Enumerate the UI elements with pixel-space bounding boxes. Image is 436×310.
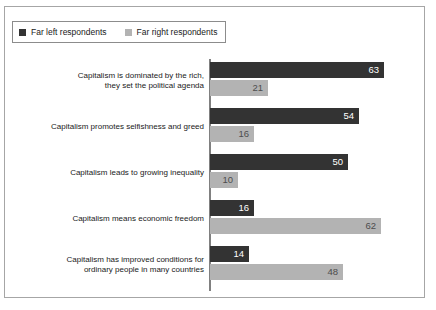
bar-far-right[interactable]: 21	[210, 80, 268, 96]
bar-value-label: 21	[252, 83, 263, 93]
legend-label-far-right: Far right respondents	[137, 28, 218, 37]
bar-group: Capitalism promotes selfishness and gree…	[5, 104, 424, 150]
category-label: Capitalism means economic freedom	[24, 196, 204, 242]
bar-value-label: 16	[238, 203, 249, 213]
plot-area: Capitalism is dominated by the rich,they…	[5, 55, 424, 298]
bar-far-right[interactable]: 62	[210, 218, 381, 234]
bar-far-left[interactable]: 16	[210, 200, 254, 216]
category-label: Capitalism is dominated by the rich,they…	[24, 58, 204, 104]
legend-entry-far-right[interactable]: Far right respondents	[125, 28, 218, 37]
category-label: Capitalism promotes selfishness and gree…	[24, 104, 204, 150]
bar-value-label: 10	[222, 175, 233, 185]
category-label-line: Capitalism has improved conditions for	[67, 255, 204, 266]
bar-far-right[interactable]: 16	[210, 126, 254, 142]
bar-group: Capitalism means economic freedom1662	[5, 196, 424, 242]
legend-label-far-left: Far left respondents	[31, 28, 107, 37]
bar-far-right[interactable]: 48	[210, 264, 343, 280]
bar-value-label: 14	[233, 249, 244, 259]
chart-legend: Far left respondents Far right responden…	[12, 21, 226, 43]
category-label: Capitalism has improved conditions foror…	[24, 242, 204, 288]
bar-far-left[interactable]: 54	[210, 108, 359, 124]
bar-far-left[interactable]: 63	[210, 62, 384, 78]
category-label-line: Capitalism means economic freedom	[72, 214, 204, 225]
bar-value-label: 62	[365, 221, 376, 231]
bar-far-left[interactable]: 50	[210, 154, 348, 170]
category-label-line: Capitalism is dominated by the rich,	[78, 71, 204, 82]
chart-frame: Far left respondents Far right responden…	[4, 6, 425, 298]
category-label-line: Capitalism promotes selfishness and gree…	[51, 122, 204, 133]
legend-swatch-far-right-icon	[125, 29, 132, 36]
bar-value-label: 48	[327, 267, 338, 277]
bar-group: Capitalism leads to growing inequality50…	[5, 150, 424, 196]
bar-far-right[interactable]: 10	[210, 172, 238, 188]
bar-group: Capitalism has improved conditions foror…	[5, 242, 424, 288]
bar-value-label: 54	[343, 111, 354, 121]
bar-far-left[interactable]: 14	[210, 246, 249, 262]
category-label-line: ordinary people in many countries	[84, 265, 204, 276]
bar-value-label: 16	[238, 129, 249, 139]
bar-group: Capitalism is dominated by the rich,they…	[5, 58, 424, 104]
category-label-line: Capitalism leads to growing inequality	[70, 168, 204, 179]
bar-value-label: 50	[332, 157, 343, 167]
bar-value-label: 63	[368, 65, 379, 75]
category-label: Capitalism leads to growing inequality	[24, 150, 204, 196]
category-label-line: they set the political agenda	[105, 81, 204, 92]
legend-entry-far-left[interactable]: Far left respondents	[19, 28, 107, 37]
legend-swatch-far-left-icon	[19, 29, 26, 36]
